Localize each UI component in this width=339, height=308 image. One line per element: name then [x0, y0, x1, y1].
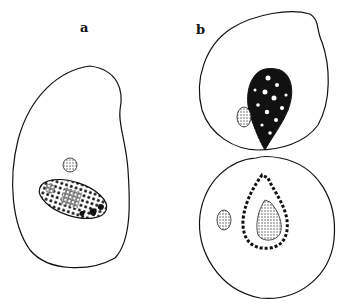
panel-a-cell [13, 66, 130, 268]
panel-b-cell [199, 12, 334, 299]
figure-drawing [0, 0, 339, 308]
